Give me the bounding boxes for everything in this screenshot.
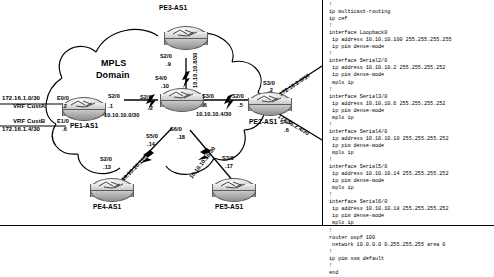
custb-vrf-label: VRF CustB xyxy=(13,118,45,124)
router-pe5[interactable] xyxy=(212,178,256,202)
mpls-cloud-label-line2: Domain xyxy=(96,72,130,78)
p-s3-0-host-label: .6 xyxy=(202,102,207,108)
custa-vrf-label: VRF CustA xyxy=(13,103,45,109)
p-s4-0-intf-label: S4/0 xyxy=(155,75,167,81)
router-pe2[interactable] xyxy=(248,92,292,116)
pe3-s2-0-intf-label: S2/0 xyxy=(160,53,172,59)
router-configuration-panel: ! ip multicast-routing ip cef ! interfac… xyxy=(322,0,494,226)
p-s5-0-intf-label: S5/0 xyxy=(146,133,158,139)
router-label-pe3: PE3-AS1 xyxy=(159,5,187,11)
router-arrows-icon xyxy=(90,178,134,192)
p-s6-0-host-label: .18 xyxy=(177,134,185,140)
p-s6-0-intf-label: S6/0 xyxy=(170,126,182,132)
pe5-s3-0-intf-label: S3/0 xyxy=(222,155,234,161)
pe4-s2-0-intf-label: S2/0 xyxy=(100,156,112,162)
link-network-10-10-10-4: 10.10.10.4/30 xyxy=(196,111,232,117)
p-s3-0-intf-label: S3/0 xyxy=(202,93,214,99)
pe2-s2-0-intf-label: S2/0 xyxy=(232,93,244,99)
bottom-divider xyxy=(0,225,494,226)
p-s2-0-host-label: .2 xyxy=(148,105,153,111)
pe1-s2-0-intf-label: S2/0 xyxy=(108,93,120,99)
pe1-e1-0-intf-label: E1/0 xyxy=(57,118,69,124)
pe3-s2-0-host-label: .9 xyxy=(166,61,171,67)
pe1-e0-0-host-label: .2 xyxy=(62,103,67,109)
router-p-core[interactable] xyxy=(160,88,204,112)
router-pe3[interactable] xyxy=(164,26,208,50)
configuration-text: ! ip multicast-routing ip cef ! interfac… xyxy=(329,2,494,277)
pe2-s3-0-host-label: .2 xyxy=(268,87,273,93)
custb-network-label: 172.16.1.4/30 xyxy=(2,126,40,132)
router-arrows-icon xyxy=(160,88,204,102)
pe1-s2-0-host-label: .1 xyxy=(108,103,113,109)
network-topology-diagram: PE3-AS1 PE1-AS1 PE2-AS1 PE4-AS1 PE5-AS1 … xyxy=(0,0,322,226)
pe4-s2-0-host-label: .13 xyxy=(103,164,111,170)
router-label-pe4: PE4-AS1 xyxy=(93,204,121,210)
router-pe4[interactable] xyxy=(90,178,134,202)
link-network-10-10-10-8: 10.10.10.8/30 xyxy=(192,52,198,88)
router-arrows-icon xyxy=(164,26,208,40)
p-s4-0-host-label: .10 xyxy=(161,83,169,89)
router-label-pe2: PE2-AS1 xyxy=(249,119,277,125)
p-s2-0-intf-label: S2/0 xyxy=(140,94,152,100)
router-label-pe5: PE5-AS1 xyxy=(215,204,243,210)
pe1-e1-0-host-label: .6 xyxy=(62,126,67,132)
pe1-e0-0-intf-label: E0/0 xyxy=(57,95,69,101)
custa-network-label: 172.16.1.0/30 xyxy=(2,95,40,101)
mpls-cloud-label-line1: MPLS xyxy=(101,60,126,66)
router-arrows-icon xyxy=(212,178,256,192)
link-network-10-10-10-0: 10.10.10.0/30 xyxy=(104,112,140,118)
pe2-s2-0-host-label: .5 xyxy=(238,102,243,108)
pe2-s4-0-host-label: .6 xyxy=(284,127,289,133)
pe5-s3-0-host-label: .17 xyxy=(225,163,233,169)
router-label-pe1: PE1-AS1 xyxy=(70,123,98,129)
p-s5-0-host-label: .14 xyxy=(147,141,155,147)
pe2-s3-0-intf-label: S3/0 xyxy=(263,80,275,86)
